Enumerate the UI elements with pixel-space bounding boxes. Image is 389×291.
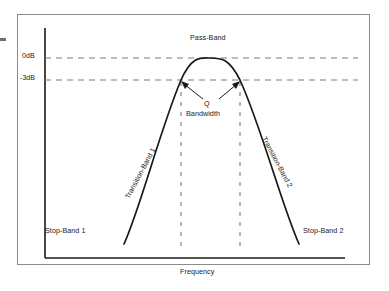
annotation-stop-band-2: Stop-Band 2 [303,227,344,235]
annotation-bandwidth: Bandwidth [186,110,220,118]
figure-canvas: 0dB -3dB Pass-Band Q Bandwidth Stop-Band… [0,0,389,291]
x-axis-label: Frequency [180,268,214,276]
annotation-q: Q [204,100,210,108]
y-tick-label-minus3db: -3dB [20,74,35,82]
y-tick-label-0db: 0dB [22,52,35,60]
annotation-stop-band-1: Stop-Band 1 [45,227,86,235]
left-edge-mark [0,38,6,41]
annotation-pass-band: Pass-Band [190,34,226,42]
